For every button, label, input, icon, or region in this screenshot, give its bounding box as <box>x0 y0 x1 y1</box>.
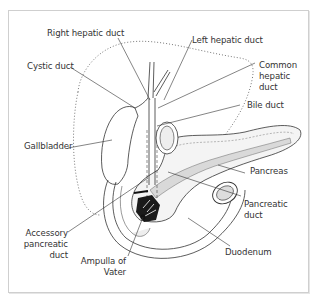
leader-cystic <box>70 67 135 108</box>
label-left-hepatic-duct: Left hepatic duct <box>192 35 263 46</box>
label-ampulla-of-vater: Ampulla of Vater <box>78 256 126 278</box>
label-right-hepatic-duct: Right hepatic duct <box>47 28 124 39</box>
label-pancreas: Pancreas <box>250 166 288 177</box>
right-hepatic-duct <box>148 62 154 98</box>
label-accessory-pancreatic-duct: Accessory pancreatic duct <box>20 228 68 261</box>
gallbladder <box>101 106 138 184</box>
label-pancreatic-duct: Pancreatic duct <box>244 199 288 221</box>
label-bile-duct: Bile duct <box>247 100 284 111</box>
label-common-hepatic-duct: Common hepatic duct <box>259 60 297 93</box>
leader-common-hepatic <box>158 63 255 108</box>
label-gallbladder: Gallbladder <box>24 141 72 152</box>
label-cystic-duct: Cystic duct <box>27 61 74 72</box>
leader-bile-duct <box>157 105 240 126</box>
leader-right-hepatic <box>118 38 150 100</box>
leader-left-hepatic <box>164 40 192 100</box>
label-duodenum: Duodenum <box>225 247 272 258</box>
cystic-duct <box>135 98 148 108</box>
